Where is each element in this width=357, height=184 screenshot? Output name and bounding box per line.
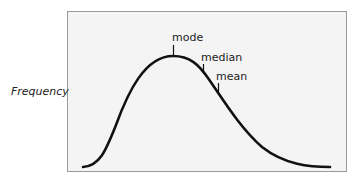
median-label: median (201, 51, 242, 64)
skewed-distribution-diagram: Frequency mode median mean (0, 0, 357, 184)
y-axis-label: Frequency (11, 85, 69, 98)
mean-label: mean (216, 70, 247, 83)
plot-panel (68, 12, 347, 172)
mode-label: mode (172, 31, 203, 44)
